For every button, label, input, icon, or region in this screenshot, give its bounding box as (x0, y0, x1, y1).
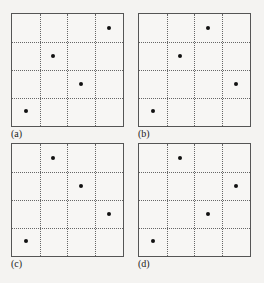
point-marker (234, 184, 238, 188)
panel-label: (d) (138, 258, 150, 269)
grid-line-horizontal (139, 42, 250, 43)
point-marker (51, 156, 55, 160)
point-marker (79, 184, 83, 188)
point-marker (51, 54, 55, 58)
point-marker (234, 82, 238, 86)
point-marker (24, 109, 28, 113)
point-marker (178, 54, 182, 58)
grid-line-horizontal (139, 172, 250, 173)
grid-line-horizontal (12, 228, 123, 229)
point-marker (24, 239, 28, 243)
point-marker (107, 212, 111, 216)
grid-panel-c (11, 143, 124, 257)
point-marker (206, 26, 210, 30)
grid-line-horizontal (139, 200, 250, 201)
grid-panel-d (138, 143, 251, 257)
grid-line-horizontal (12, 98, 123, 99)
point-marker (107, 26, 111, 30)
panel-label: (c) (11, 258, 22, 269)
panel-label: (a) (11, 128, 22, 139)
point-marker (151, 109, 155, 113)
grid-line-horizontal (139, 98, 250, 99)
point-marker (206, 212, 210, 216)
grid-line-horizontal (12, 172, 123, 173)
point-marker (151, 239, 155, 243)
grid-line-horizontal (12, 200, 123, 201)
grid-line-horizontal (12, 42, 123, 43)
point-marker (79, 82, 83, 86)
panel-label: (b) (138, 128, 150, 139)
grid-line-horizontal (139, 70, 250, 71)
grid-panel-a (11, 13, 124, 127)
grid-line-horizontal (12, 70, 123, 71)
grid-panel-b (138, 13, 251, 127)
point-marker (178, 156, 182, 160)
grid-line-horizontal (139, 228, 250, 229)
